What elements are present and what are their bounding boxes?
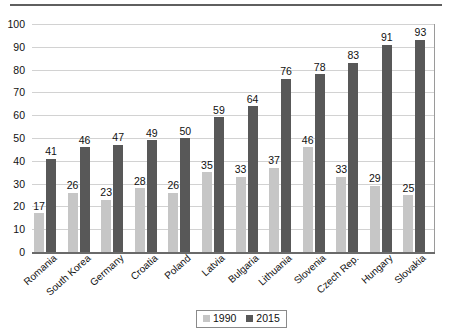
bar-value-label: 93 (415, 27, 427, 38)
bar-value-label: 26 (67, 180, 79, 191)
bar-group: 1741 (32, 24, 66, 252)
bar-group: 3364 (234, 24, 268, 252)
x-tick-label: Bulgaria (226, 253, 260, 285)
bar-2015 (348, 63, 358, 252)
bar-1990 (101, 200, 111, 252)
bar-value-label: 26 (167, 180, 179, 191)
bar-2015 (248, 106, 258, 252)
bar-2015 (180, 138, 190, 252)
bar-group: 2593 (401, 24, 435, 252)
bar-value-label: 49 (146, 128, 158, 139)
bar-group: 2347 (99, 24, 133, 252)
y-tick-label: 30 (13, 178, 25, 189)
bar-value-label: 23 (100, 187, 112, 198)
bar-1990 (34, 213, 44, 252)
bar-value-label: 35 (201, 160, 213, 171)
y-tick-label: 20 (13, 201, 25, 212)
bar-1990 (403, 195, 413, 252)
bar-value-label: 17 (33, 201, 45, 212)
bar-2015 (415, 40, 425, 252)
bar-group: 2646 (66, 24, 100, 252)
x-tick-label: Hungary (360, 253, 395, 286)
bar-value-label: 29 (369, 173, 381, 184)
bar-1990 (269, 168, 279, 252)
legend-item[interactable]: 1990 (203, 313, 236, 324)
bar-value-label: 76 (280, 66, 292, 77)
x-tick-label: Lithuania (257, 253, 294, 288)
x-axis-category-labels: RomaniaSouth KoreaGermanyCroatiaPolandLa… (32, 253, 435, 313)
y-tick-label: 0 (19, 247, 25, 258)
plot-area: 1741264623472849265035593364377646783383… (32, 24, 435, 252)
bar-value-label: 47 (112, 132, 124, 143)
y-axis-tick-labels: 0102030405060708090100 (0, 24, 28, 252)
bar-group: 3383 (334, 24, 368, 252)
bar-value-label: 37 (268, 155, 280, 166)
bar-1990 (68, 193, 78, 252)
bar-1990 (336, 177, 346, 252)
bar-value-label: 33 (235, 164, 247, 175)
bar-value-label: 83 (347, 50, 359, 61)
bar-value-label: 91 (381, 32, 393, 43)
y-tick-label: 90 (13, 42, 25, 53)
y-tick-label: 60 (13, 110, 25, 121)
y-tick-label: 50 (13, 133, 25, 144)
bar-group: 2849 (133, 24, 167, 252)
x-tick-label: Croatia (129, 253, 160, 282)
bar-2015 (80, 147, 90, 252)
x-tick-label: Slovakia (393, 253, 428, 286)
legend-swatch-icon (203, 315, 210, 322)
y-tick-label: 80 (13, 64, 25, 75)
bar-group: 2650 (166, 24, 200, 252)
bar-2015 (46, 159, 56, 252)
legend-label: 2015 (256, 313, 279, 324)
x-tick-label: Latvia (200, 253, 227, 278)
bar-group: 4678 (301, 24, 335, 252)
bar-group: 3559 (200, 24, 234, 252)
bar-2015 (147, 140, 157, 252)
y-tick-label: 70 (13, 87, 25, 98)
x-tick-label: Germany (89, 253, 126, 288)
y-tick-label: 100 (7, 19, 25, 30)
bar-2015 (382, 45, 392, 252)
bar-1990 (236, 177, 246, 252)
bar-group: 3776 (267, 24, 301, 252)
bar-value-label: 50 (179, 126, 191, 137)
bar-value-label: 25 (403, 183, 415, 194)
bar-1990 (303, 147, 313, 252)
bar-2015 (113, 145, 123, 252)
bar-1990 (370, 186, 380, 252)
bar-value-label: 78 (314, 62, 326, 73)
legend-item[interactable]: 2015 (246, 313, 279, 324)
x-tick-label: Poland (163, 253, 193, 281)
bar-value-label: 59 (213, 105, 225, 116)
bar-2015 (214, 117, 224, 252)
bar-group: 2991 (368, 24, 402, 252)
bar-value-label: 41 (45, 146, 57, 157)
legend-swatch-icon (246, 315, 253, 322)
bar-groups: 1741264623472849265035593364377646783383… (32, 24, 435, 252)
y-tick-label: 40 (13, 156, 25, 167)
bar-value-label: 46 (302, 135, 314, 146)
bar-2015 (281, 79, 291, 252)
bar-1990 (135, 188, 145, 252)
bar-value-label: 46 (79, 135, 91, 146)
bar-chart: 0102030405060708090100 17412646234728492… (0, 0, 450, 335)
bar-1990 (202, 172, 212, 252)
bar-value-label: 33 (335, 164, 347, 175)
bar-value-label: 28 (134, 176, 146, 187)
legend-label: 1990 (213, 313, 236, 324)
y-tick-label: 10 (13, 224, 25, 235)
top-divider-rule (10, 4, 442, 6)
bar-value-label: 64 (247, 94, 259, 105)
chart-legend: 19902015 (196, 310, 287, 328)
bar-1990 (168, 193, 178, 252)
bar-2015 (315, 74, 325, 252)
